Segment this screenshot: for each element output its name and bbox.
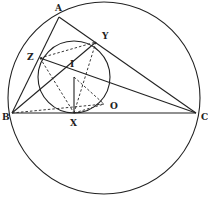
segment-BP bbox=[12, 104, 104, 113]
label-O: O bbox=[110, 102, 118, 111]
label-X: X bbox=[70, 119, 77, 128]
label-I: I bbox=[70, 60, 74, 69]
geometry-diagram: A B C Z Y I X O bbox=[0, 0, 208, 208]
segment-YX bbox=[74, 42, 96, 113]
label-A: A bbox=[55, 4, 62, 13]
label-Y: Y bbox=[102, 32, 108, 41]
label-B: B bbox=[2, 113, 10, 122]
label-C: C bbox=[201, 113, 208, 122]
segment-BY bbox=[12, 42, 96, 113]
segment-CZ bbox=[40, 58, 196, 113]
label-Z: Z bbox=[27, 53, 34, 62]
segment-ZY bbox=[40, 42, 96, 58]
segment-AC bbox=[59, 17, 196, 113]
